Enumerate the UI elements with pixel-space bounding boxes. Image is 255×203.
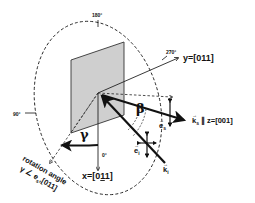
- gamma-arrow: [62, 145, 98, 146]
- angle-0-label: 0°: [102, 152, 107, 158]
- y-axis-label: y=[011]: [183, 53, 214, 63]
- ei-vector-arrow-mark: →: [134, 142, 139, 148]
- sample-plate: [71, 42, 124, 133]
- angle-270-label: 270°: [166, 49, 176, 55]
- angle-180-label: 180°: [92, 12, 102, 18]
- tick-270: [162, 56, 167, 60]
- ki-vector-arrow-mark: →: [163, 161, 168, 167]
- gamma-label: γ: [80, 127, 89, 142]
- angle-90-label: 90°: [13, 111, 21, 117]
- ks-vector-arrow-mark: →: [192, 112, 197, 118]
- es-vector-arrow-mark: →: [159, 117, 164, 123]
- scattering-diagram: 180° 270° 90° 0° y=[011] x=[011] β γ ks∥…: [0, 0, 255, 203]
- ks-label: ks∥ z=[001]: [192, 116, 233, 126]
- x-axis-label: x=[011]: [82, 171, 113, 181]
- beta-label: β: [136, 101, 145, 116]
- rotation-angle-note: rotation angle γ ∠ es,[011]: [16, 154, 69, 196]
